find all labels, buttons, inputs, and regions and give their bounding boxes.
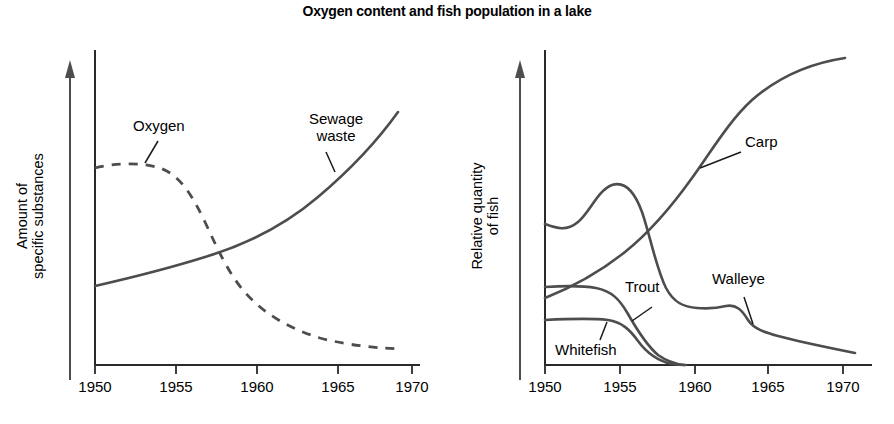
left-xtick-1960: 1960: [227, 378, 287, 395]
left-xtick-1955: 1955: [146, 378, 206, 395]
left-y-axis-label: Amount of specific substances: [14, 131, 46, 301]
right-y-axis-arrow: [515, 60, 525, 380]
leader-sewage-waste: [326, 152, 335, 172]
sewage-label-line1: Sewage: [309, 110, 363, 127]
right-xtick-1970: 1970: [813, 378, 873, 395]
series-label-oxygen: Oxygen: [133, 117, 185, 134]
left-xtick-1965: 1965: [308, 378, 368, 395]
left-xtick-1950: 1950: [65, 378, 125, 395]
curve-carp: [545, 58, 845, 298]
right-y-axis-label: Relative quantity of fish: [469, 131, 501, 301]
leader-carp: [700, 152, 741, 168]
curve-walleye: [545, 184, 855, 353]
series-label-trout: Trout: [625, 278, 659, 295]
right-x-ticks: [545, 365, 843, 374]
series-label-sewage-waste: Sewage waste: [298, 110, 374, 144]
figure-root: Oxygen content and fish population in a …: [0, 0, 894, 424]
series-label-walleye: Walleye: [712, 270, 765, 287]
sewage-label-line2: waste: [316, 127, 355, 144]
curve-oxygen: [95, 164, 400, 349]
right-xtick-1960: 1960: [665, 378, 725, 395]
leader-trout: [632, 307, 652, 321]
left-panel-plot: [0, 0, 894, 424]
leader-whitefish: [600, 322, 607, 340]
series-label-carp: Carp: [745, 133, 778, 150]
right-xtick-1950: 1950: [515, 378, 575, 395]
series-label-whitefish: Whitefish: [555, 341, 617, 358]
leader-oxygen: [145, 141, 158, 163]
left-x-ticks: [95, 365, 412, 374]
right-xtick-1965: 1965: [738, 378, 798, 395]
right-xtick-1955: 1955: [590, 378, 650, 395]
left-xtick-1970: 1970: [382, 378, 442, 395]
left-y-axis-arrow: [65, 60, 75, 380]
